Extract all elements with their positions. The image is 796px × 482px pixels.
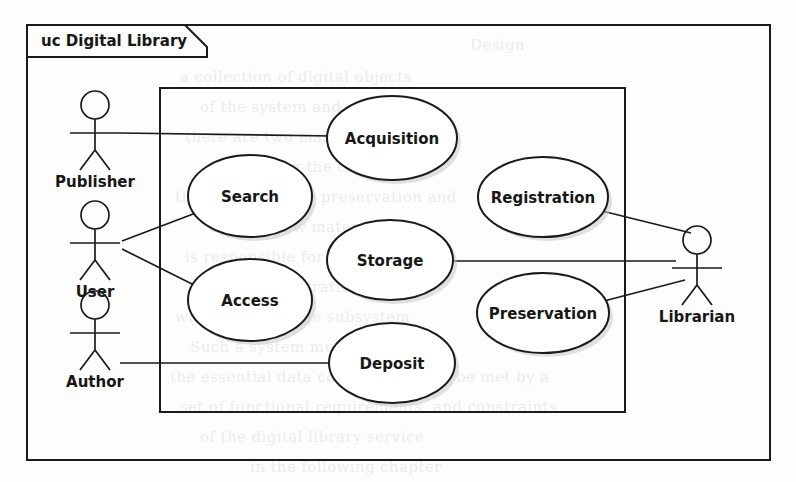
use-case-label: Deposit bbox=[360, 355, 425, 373]
association-preservation-librarian bbox=[600, 280, 685, 302]
actor-user[interactable]: User bbox=[70, 201, 120, 301]
use-case-label: Registration bbox=[491, 189, 596, 207]
actor-leg-left bbox=[80, 150, 95, 170]
association-publisher-acquisition bbox=[120, 133, 331, 136]
actor-leg-right bbox=[95, 350, 110, 370]
use-case-storage[interactable]: Storage bbox=[327, 220, 457, 304]
association-user-search bbox=[122, 211, 201, 241]
actor-label: User bbox=[76, 283, 115, 301]
actor-head-icon bbox=[81, 91, 109, 119]
use-case-preservation[interactable]: Preservation bbox=[477, 273, 613, 357]
actor-leg-left bbox=[80, 350, 95, 370]
actor-label: Author bbox=[66, 373, 124, 391]
use-case-label: Acquisition bbox=[345, 130, 439, 148]
actor-head-icon bbox=[81, 201, 109, 229]
actor-leg-right bbox=[95, 260, 110, 280]
use-case-label: Storage bbox=[357, 252, 424, 270]
actor-leg-left bbox=[682, 285, 697, 305]
diagram-canvas: Designa collection of digital objectsof … bbox=[0, 0, 796, 482]
use-case-acquisition[interactable]: Acquisition bbox=[327, 96, 461, 184]
use-case-access[interactable]: Access bbox=[188, 259, 316, 345]
actor-librarian[interactable]: Librarian bbox=[659, 226, 735, 326]
actor-label: Librarian bbox=[659, 308, 735, 326]
actor-author[interactable]: Author bbox=[66, 291, 124, 391]
use-case-diagram: uc Digital Library Acquisition Search bbox=[0, 0, 796, 482]
diagram-frame-title-label: uc Digital Library bbox=[41, 32, 187, 50]
actor-label: Publisher bbox=[55, 173, 135, 191]
actor-leg-left bbox=[80, 260, 95, 280]
use-case-search[interactable]: Search bbox=[188, 155, 316, 241]
use-case-label: Search bbox=[221, 188, 279, 206]
use-case-registration[interactable]: Registration bbox=[478, 157, 612, 241]
actor-leg-right bbox=[697, 285, 712, 305]
actor-publisher[interactable]: Publisher bbox=[55, 91, 135, 191]
use-case-deposit[interactable]: Deposit bbox=[329, 323, 459, 407]
association-registration-librarian bbox=[598, 210, 691, 233]
use-case-label: Access bbox=[221, 292, 278, 310]
actor-head-icon bbox=[683, 226, 711, 254]
actor-leg-right bbox=[95, 150, 110, 170]
use-case-label: Preservation bbox=[489, 305, 597, 323]
